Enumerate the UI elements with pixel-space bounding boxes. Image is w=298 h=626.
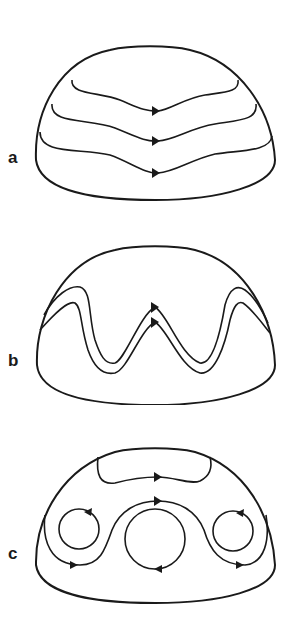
arrow-icon [70, 561, 78, 569]
flow-line-1 [72, 80, 238, 111]
panel-label-a: a [8, 148, 17, 168]
cyclone-cell-right [213, 511, 253, 551]
panel-b: b [0, 205, 298, 405]
arrow-icon [154, 565, 162, 573]
panel-label-c: c [8, 544, 17, 564]
arrow-icon [152, 106, 160, 116]
arrow-icon [236, 509, 244, 517]
hemisphere-outline [36, 448, 275, 603]
hemisphere-outline [36, 46, 275, 200]
flow-band-inner [40, 303, 270, 374]
arrow-icon [151, 317, 159, 328]
cyclone-cell-left [59, 509, 99, 549]
arrow-icon [152, 136, 160, 146]
arrow-icon [151, 302, 159, 313]
flow-line-3 [40, 132, 272, 173]
arrow-icon [154, 472, 162, 482]
hemisphere-outline [37, 246, 275, 405]
hemisphere-a-diagram [0, 0, 298, 205]
panel-label-b: b [8, 351, 18, 371]
arrow-icon [152, 168, 160, 178]
flow-band-outer [44, 287, 268, 364]
panel-c: c [0, 405, 298, 626]
arrow-icon [236, 561, 244, 569]
arrow-icon [154, 496, 162, 506]
hemisphere-c-diagram [0, 405, 298, 626]
hemisphere-b-diagram [0, 205, 298, 405]
panel-a: a [0, 0, 298, 205]
cyclone-cell-center [125, 509, 185, 569]
